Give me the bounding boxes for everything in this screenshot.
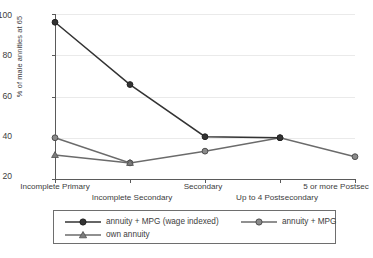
series-layer <box>55 14 355 179</box>
series-annuity-mpg-wage-indexed <box>52 19 283 140</box>
chart-figure: % of male annities at 65 100 80 60 40 20 <box>0 0 373 258</box>
legend-key-filled-circle-icon <box>64 215 102 229</box>
chart-legend: annuity + MPG (wage indexed) annuity + M… <box>53 210 336 244</box>
y-axis-title: % of male annities at 65 <box>15 0 24 122</box>
x-tick-label-secondary: Secondary <box>184 182 223 191</box>
x-tick-mark-2 <box>130 179 131 183</box>
y-tick-label-40: 40 <box>0 131 12 141</box>
legend-entry-annuity-mpg: annuity + MPG <box>240 215 335 229</box>
y-tick-label-100: 100 <box>0 10 12 20</box>
x-tick-label-incomplete-secondary: Incomplete Secondary <box>92 193 173 202</box>
legend-entry-annuity-mpg-wage-indexed: annuity + MPG (wage indexed) <box>64 215 224 229</box>
x-tick-mark-4 <box>280 179 281 183</box>
y-tick-label-80: 80 <box>0 50 12 60</box>
legend-entry-own-annuity: own annuity <box>64 228 184 242</box>
x-tick-label-up-to-4-postsecondary: Up to 4 Postsecondary <box>236 193 318 202</box>
y-tick-label-20: 20 <box>0 171 12 181</box>
legend-key-gray-circle-icon <box>240 215 278 229</box>
legend-label-own-annuity: own annuity <box>106 230 150 239</box>
legend-label-annuity-mpg: annuity + MPG <box>282 217 336 226</box>
plot-area <box>55 14 355 179</box>
x-tick-label-incomplete-primary: Incomplete Primary <box>20 182 90 191</box>
series-own-annuity <box>52 152 134 166</box>
legend-label-annuity-mpg-wage-indexed: annuity + MPG (wage indexed) <box>106 217 219 226</box>
legend-key-triangle-icon <box>64 228 102 242</box>
y-tick-label-60: 60 <box>0 91 12 101</box>
x-tick-label-5-or-more-postsec: 5 or more Postsec <box>303 182 369 191</box>
